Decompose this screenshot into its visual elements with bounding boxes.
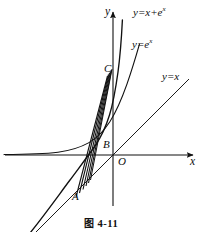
curve-label-y-equals-x-plus-exp-x: y=x+ex: [133, 7, 166, 18]
point-label-c: C: [104, 63, 111, 74]
curve-label-base: y=e: [132, 38, 149, 50]
point-label-a: A: [72, 191, 79, 202]
curve-label-y-equals-exp-x: y=ex: [132, 39, 152, 50]
point-label-b: B: [103, 139, 110, 150]
x-axis-label: x: [190, 156, 195, 168]
curve-label-base: y=x+e: [133, 6, 163, 18]
curve-label-exponent: x: [149, 37, 152, 45]
secant-line-2: [86, 72, 111, 187]
secant-line-5: [76, 76, 108, 197]
curve-label-exponent: x: [163, 5, 166, 13]
figure-caption-number: 4-11: [97, 218, 118, 229]
secant-line-4: [80, 75, 109, 194]
secant-line-6: [91, 69, 113, 180]
figure-container: y=x+ex y=ex y=x y x C B O A 图 4-11: [0, 0, 202, 232]
figure-caption: 图 4-11: [0, 216, 202, 232]
plot-canvas: [0, 0, 202, 232]
curve-label-y-equals-x: y=x: [162, 71, 179, 82]
curve-label-base: y=x: [162, 70, 179, 82]
origin-label: O: [118, 156, 126, 167]
y-axis-label: y: [105, 6, 110, 18]
figure-caption-symbol: 图: [84, 218, 95, 229]
